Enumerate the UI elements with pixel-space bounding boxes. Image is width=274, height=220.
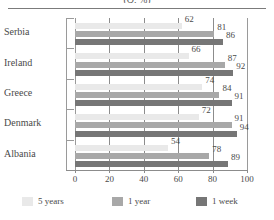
chart-title-clipped: (Q, %)	[0, 0, 274, 3]
legend-item[interactable]: 1 year	[112, 196, 150, 206]
bar-value-label: 94	[240, 122, 249, 132]
y-axis-spine	[66, 18, 67, 170]
bar	[75, 31, 214, 37]
plot-right-border	[247, 18, 248, 170]
category-label: Denmark	[4, 117, 41, 128]
x-axis-tick	[75, 170, 76, 173]
legend-label: 1 year	[128, 196, 150, 206]
bar	[75, 131, 237, 137]
bar-value-label: 74	[205, 75, 214, 85]
legend-label: 1 week	[212, 196, 238, 206]
category-label: Serbia	[4, 26, 30, 37]
bar	[75, 53, 189, 59]
plot-area: 628186668792748491729194547889	[75, 18, 247, 170]
x-axis-tick-label: 40	[139, 174, 148, 184]
bar	[75, 114, 199, 120]
bar	[75, 145, 168, 151]
category-label: Albania	[4, 148, 36, 159]
y-axis-tick	[66, 18, 74, 19]
x-axis-tick-label: 100	[240, 174, 254, 184]
legend-swatch	[196, 197, 207, 206]
y-axis-tick	[66, 48, 74, 49]
bar	[75, 84, 202, 90]
x-axis-tick	[109, 170, 110, 173]
x-axis-tick	[213, 170, 214, 173]
bar	[75, 92, 219, 98]
legend-swatch	[22, 197, 33, 206]
bar-value-label: 92	[236, 61, 245, 71]
title-divider	[8, 8, 266, 9]
bar-value-label: 66	[192, 44, 201, 54]
bar-value-label: 54	[171, 136, 180, 146]
x-axis-tick	[144, 170, 145, 173]
y-axis-tick	[66, 109, 74, 110]
y-axis-tick	[66, 140, 74, 141]
bar-value-label: 78	[212, 144, 221, 154]
bar-value-label: 91	[235, 91, 244, 101]
bar	[75, 161, 228, 167]
bar	[75, 122, 232, 128]
bar	[75, 62, 225, 68]
x-axis-tick-label: 60	[174, 174, 183, 184]
bar-value-label: 89	[231, 152, 240, 162]
x-axis-tick-label: 80	[208, 174, 217, 184]
bar-value-label: 86	[226, 30, 235, 40]
x-axis-tick	[178, 170, 179, 173]
chart-legend: 5 years1 year1 week	[0, 196, 274, 212]
legend-label: 5 years	[38, 196, 64, 206]
x-axis-line	[66, 170, 247, 171]
bar-value-label: 62	[185, 14, 194, 24]
legend-item[interactable]: 1 week	[196, 196, 238, 206]
bar-value-label: 84	[222, 83, 231, 93]
bar-value-label: 72	[202, 105, 211, 115]
legend-swatch	[112, 197, 123, 206]
y-axis-tick	[66, 79, 74, 80]
category-label: Greece	[4, 87, 32, 98]
category-label: Ireland	[4, 57, 32, 68]
x-axis-tick-label: 0	[73, 174, 78, 184]
bar-chart: (Q, %) 020406080100 SerbiaIrelandGreeceD…	[0, 0, 274, 220]
x-axis-tick	[247, 170, 248, 173]
x-axis-tick-label: 20	[105, 174, 114, 184]
legend-item[interactable]: 5 years	[22, 196, 64, 206]
chart-title: (Q, %)	[0, 0, 274, 3]
bar	[75, 23, 182, 29]
bar	[75, 153, 209, 159]
